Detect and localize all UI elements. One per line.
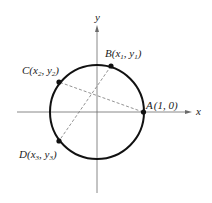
point-d-label: D(x3, y3)	[18, 148, 57, 162]
point-b-dot-icon	[108, 63, 113, 68]
x-axis-arrow-icon	[185, 110, 192, 114]
point-b-label: B(x1, y1)	[105, 47, 142, 61]
x-axis-label: x	[195, 105, 201, 117]
unit-circle-diagram: x y A(1, 0) B(x1, y1) C(x2, y2) D(x3, y3…	[0, 0, 212, 203]
y-axis-arrow-icon	[95, 25, 99, 32]
point-d-dot-icon	[56, 138, 61, 143]
y-axis-label: y	[94, 11, 100, 23]
chord-a-c	[59, 82, 143, 112]
point-c-dot-icon	[56, 79, 61, 84]
y-axis: y	[94, 11, 100, 193]
point-c-label: C(x2, y2)	[22, 64, 59, 78]
point-a-label: A(1, 0)	[145, 99, 178, 112]
